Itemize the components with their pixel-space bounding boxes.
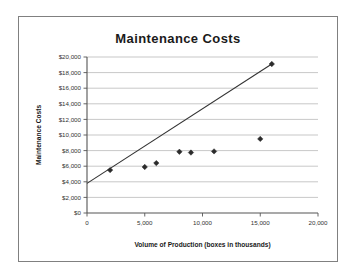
data-point-marker [269, 61, 274, 66]
data-point-marker [142, 164, 147, 169]
x-tick-label: 15,000 [251, 219, 270, 226]
trend-line [87, 64, 272, 183]
y-tick-label: $18,000 [59, 69, 82, 76]
x-tick-label: 0 [85, 219, 89, 226]
y-tick-label: $2,000 [62, 194, 81, 201]
x-tick-label: 10,000 [193, 219, 212, 226]
y-tick-label: $0 [74, 209, 81, 216]
x-tick-label: 20,000 [309, 219, 328, 226]
gridlines [87, 57, 318, 197]
x-axis-title: Volume of Production (boxes in thousands… [134, 241, 270, 249]
chart-frame: Maintenance Costs $0$2,000$4,000$6,000$8… [18, 16, 338, 262]
tick-marks [84, 57, 319, 217]
y-tick-label: $20,000 [59, 53, 82, 60]
y-tick-label: $16,000 [59, 84, 82, 91]
y-tick-label: $8,000 [62, 147, 81, 154]
scatter-plot: $0$2,000$4,000$6,000$8,000$10,000$12,000… [19, 17, 337, 261]
x-axis-tick-labels: 05,00010,00015,00020,000 [85, 219, 328, 226]
y-tick-label: $12,000 [59, 116, 82, 123]
data-point-marker [107, 167, 112, 172]
data-point-marker [177, 149, 182, 154]
x-tick-label: 5,000 [137, 219, 153, 226]
y-tick-label: $6,000 [62, 162, 81, 169]
y-tick-label: $14,000 [59, 100, 82, 107]
data-point-marker [211, 149, 216, 154]
y-tick-label: $10,000 [59, 131, 82, 138]
y-axis-tick-labels: $0$2,000$4,000$6,000$8,000$10,000$12,000… [59, 53, 82, 216]
y-axis-title: Maintenance Costs [35, 105, 42, 165]
data-point-marker [154, 160, 159, 165]
data-point-marker [258, 136, 263, 141]
y-tick-label: $4,000 [62, 178, 81, 185]
